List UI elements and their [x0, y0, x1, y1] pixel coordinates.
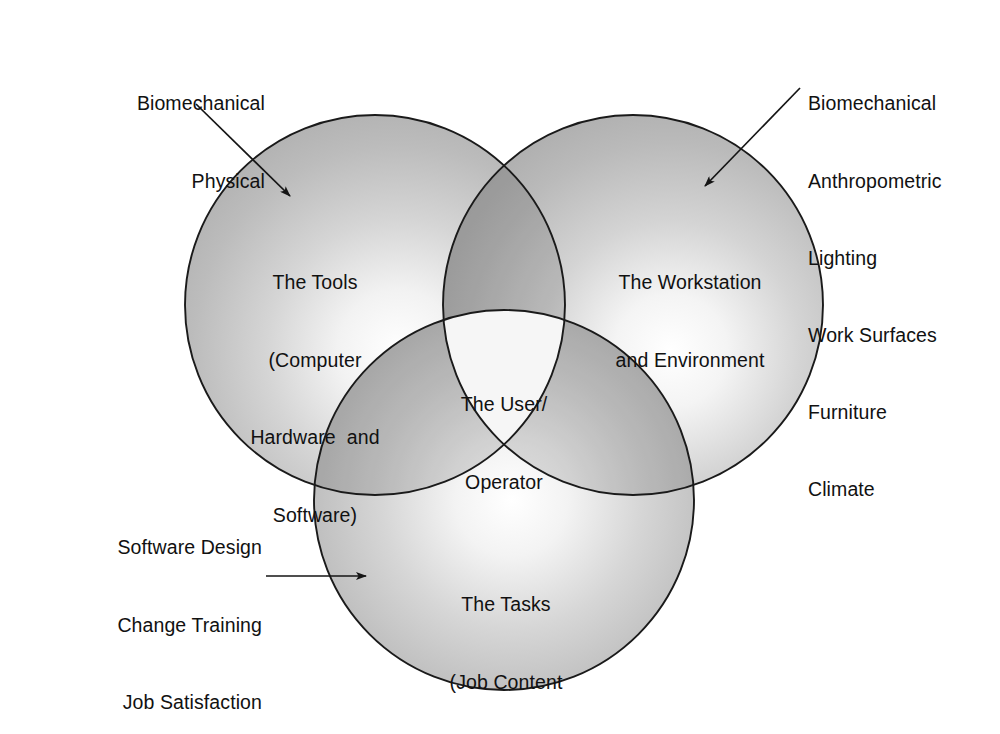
user-operator-label-line-1: The User/	[414, 392, 594, 418]
user-operator-label: The User/ Operator	[414, 340, 594, 547]
tasks-callout-line-2: Change Training	[10, 613, 262, 639]
tasks-circle-label: The Tasks (Job Content and Context)	[394, 540, 618, 734]
tools-callout: Biomechanical Physical	[40, 40, 265, 246]
tools-circle-label-line-1: The Tools	[205, 270, 425, 296]
workstation-callout-line-6: Climate	[808, 477, 1000, 503]
workstation-callout-line-4: Work Surfaces	[808, 323, 1000, 349]
venn-diagram-figure: Biomechanical Physical Biomechanical Ant…	[0, 0, 1000, 734]
tools-circle-label-line-4: Software)	[205, 503, 425, 529]
workstation-circle-label: The Workstation and Environment	[566, 218, 814, 425]
workstation-callout-line-2: Anthropometric	[808, 169, 1000, 195]
workstation-callout: Biomechanical Anthropometric Lighting Wo…	[808, 40, 1000, 555]
tasks-circle-label-line-1: The Tasks	[394, 592, 618, 618]
user-operator-label-line-2: Operator	[414, 470, 594, 496]
workstation-circle-label-line-2: and Environment	[566, 348, 814, 374]
workstation-callout-line-5: Furniture	[808, 400, 1000, 426]
tools-circle-label-line-2: (Computer	[205, 348, 425, 374]
tasks-circle-label-line-2: (Job Content	[394, 670, 618, 696]
workstation-circle-label-line-1: The Workstation	[566, 270, 814, 296]
tools-callout-line-1: Biomechanical	[40, 91, 265, 117]
tools-circle-label-line-3: Hardware and	[205, 425, 425, 451]
workstation-callout-line-1: Biomechanical	[808, 91, 1000, 117]
tasks-callout-line-3: Job Satisfaction	[10, 690, 262, 716]
workstation-callout-line-3: Lighting	[808, 246, 1000, 272]
tools-callout-line-2: Physical	[40, 169, 265, 195]
tools-circle-label: The Tools (Computer Hardware and Softwar…	[205, 218, 425, 581]
